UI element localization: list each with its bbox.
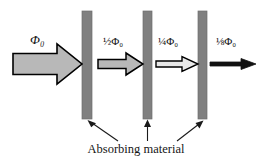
flux-arrow-4: [210, 59, 256, 70]
absorbing-plate-2: [143, 11, 152, 119]
caption-absorbing-material: Absorbing material: [0, 142, 272, 157]
figure-canvas: Φ₀ ½Φ₀ ¼Φ₀ ⅛Φ₀ Absorbing material: [0, 0, 272, 165]
flux-label-quarter: ¼Φ₀: [158, 36, 178, 47]
absorbing-plate-3: [198, 11, 207, 119]
flux-arrow-3: [156, 57, 198, 72]
flux-label-phi0: Φ₀: [30, 33, 44, 46]
flux-label-eighth: ⅛Φ₀: [216, 36, 236, 47]
pointers-group: [88, 120, 204, 142]
pointer-to-plate-3: [177, 121, 204, 142]
absorbing-plate-1: [82, 11, 92, 119]
flux-arrow-1: [13, 44, 82, 84]
diagram-svg: [0, 0, 272, 165]
flux-arrow-2: [98, 53, 143, 75]
pointer-to-plate-1: [88, 120, 119, 141]
pointer-to-plate-2: [144, 120, 151, 142]
flux-label-half: ½Φ₀: [103, 36, 123, 47]
